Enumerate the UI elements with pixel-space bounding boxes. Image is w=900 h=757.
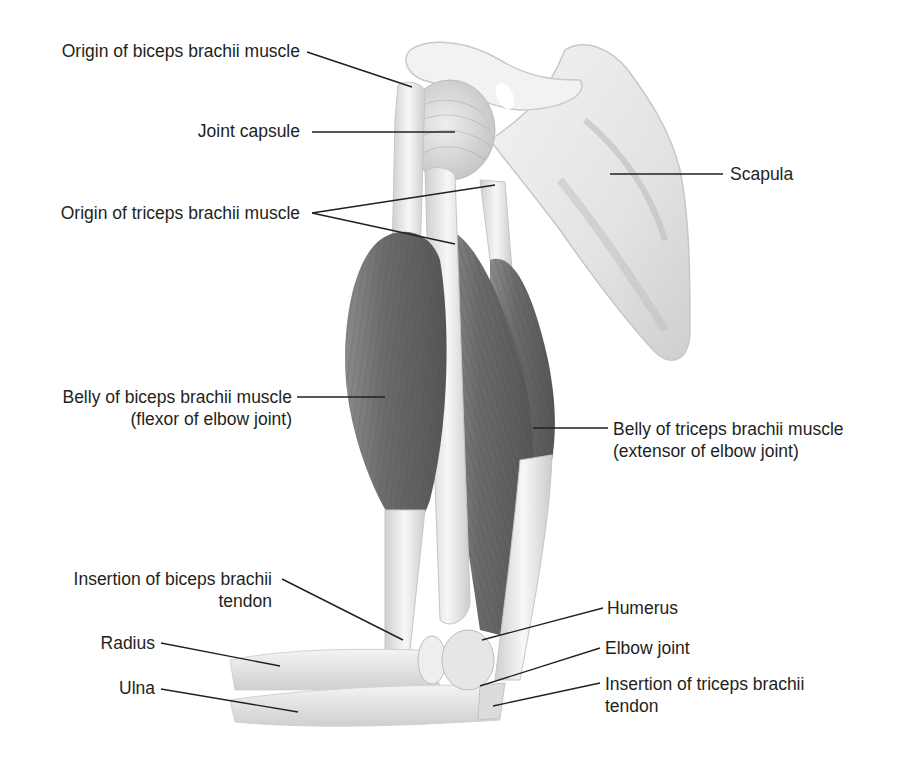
label-text-line2: (flexor of elbow joint) — [62, 408, 292, 430]
label-text: Radius — [101, 632, 155, 654]
biceps-insertion-tendon — [385, 510, 425, 650]
label-text-line1: Insertion of biceps brachii — [74, 568, 272, 590]
ulna-shape — [230, 685, 500, 726]
radius-shape — [230, 649, 440, 690]
label-joint-capsule: Joint capsule — [198, 120, 300, 142]
label-ulna: Ulna — [119, 677, 155, 699]
label-origin-triceps: Origin of triceps brachii muscle — [61, 202, 300, 224]
label-humerus: Humerus — [607, 597, 678, 619]
label-belly-biceps: Belly of biceps brachii muscle (flexor o… — [62, 386, 292, 430]
leader-insertion-triceps — [493, 683, 600, 706]
label-text-line1: Belly of triceps brachii muscle — [613, 418, 844, 440]
label-text: Joint capsule — [198, 120, 300, 142]
arm-muscle-diagram: Origin of biceps brachii muscle Joint ca… — [0, 0, 900, 757]
label-radius: Radius — [101, 632, 155, 654]
label-scapula: Scapula — [730, 163, 793, 185]
label-text: Origin of biceps brachii muscle — [62, 40, 300, 62]
label-belly-triceps: Belly of triceps brachii muscle (extenso… — [613, 418, 844, 462]
label-text: Origin of triceps brachii muscle — [61, 202, 300, 224]
label-insertion-triceps: Insertion of triceps brachii tendon — [605, 673, 804, 717]
label-origin-biceps: Origin of biceps brachii muscle — [62, 40, 300, 62]
leader-origin-biceps — [307, 52, 412, 87]
label-text: Elbow joint — [605, 637, 690, 659]
label-text-line1: Belly of biceps brachii muscle — [62, 386, 292, 408]
label-text-line1: Insertion of triceps brachii — [605, 673, 804, 695]
label-text: Scapula — [730, 163, 793, 185]
label-text: Humerus — [607, 597, 678, 619]
label-text: Ulna — [119, 677, 155, 699]
label-text-line2: (extensor of elbow joint) — [613, 440, 844, 462]
label-insertion-biceps: Insertion of biceps brachii tendon — [74, 568, 272, 612]
label-text-line2: tendon — [605, 695, 804, 717]
label-elbow-joint: Elbow joint — [605, 637, 690, 659]
label-text-line2: tendon — [74, 590, 272, 612]
